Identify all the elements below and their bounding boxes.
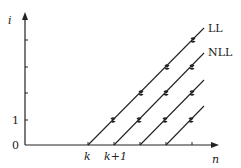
line-label-LL: LL bbox=[208, 22, 223, 35]
x-axis-label: n bbox=[212, 153, 219, 166]
x-axis-arrow-icon bbox=[211, 142, 219, 148]
x-tick-label-k-plus-1: k+1 bbox=[104, 150, 127, 163]
diagram: i n 0 1 k k+1 LL NLL bbox=[0, 0, 241, 168]
line-3 bbox=[140, 80, 204, 145]
y-axis-label: i bbox=[8, 14, 12, 27]
diagonal-lines bbox=[88, 28, 204, 145]
line-LL bbox=[88, 28, 204, 145]
y-axis-arrow-icon bbox=[22, 12, 28, 20]
line-4 bbox=[166, 106, 204, 145]
y-tick-label-1: 1 bbox=[12, 114, 19, 127]
line-NLL bbox=[114, 53, 204, 145]
y-tick-label-0: 0 bbox=[12, 139, 19, 152]
x-tick-label-k: k bbox=[84, 150, 91, 163]
line-label-NLL: NLL bbox=[208, 46, 233, 59]
